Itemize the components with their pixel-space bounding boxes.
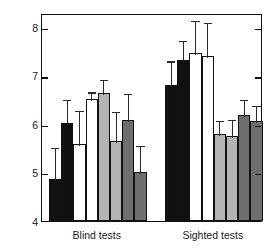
error-bar-sighted-bar-3 [195, 21, 196, 55]
error-bar-cap-blind-bar-7 [124, 94, 132, 95]
error-bar-blind-bar-4 [91, 92, 92, 101]
bar-sighted-bar-5 [214, 134, 226, 221]
error-bar-cap-sighted-bar-7 [240, 100, 248, 101]
error-bar-blind-bar-2 [67, 100, 68, 125]
y-axis-tick-labels: 45678 [18, 0, 38, 251]
x-axis-label-sighted-tests: Sighted tests [153, 229, 273, 241]
error-bar-blind-bar-8 [140, 146, 141, 175]
error-bar-cap-sighted-bar-3 [191, 21, 199, 22]
x-axis-label-blind-tests: Blind tests [37, 229, 157, 241]
y-tick-label-4: 4 [24, 217, 38, 228]
y-tick-mark-left-6 [42, 126, 48, 127]
bar-sighted-bar-4 [202, 56, 214, 221]
bar-group-container [42, 15, 261, 221]
error-bar-cap-sighted-bar-4 [204, 23, 212, 24]
y-tick-label-6: 6 [24, 120, 38, 131]
y-tick-mark-right-6 [255, 126, 261, 127]
bar-blind-bar-7 [122, 120, 134, 221]
error-bar-cap-sighted-bar-8 [252, 106, 260, 107]
y-tick-mark-right-5 [255, 174, 261, 175]
error-bar-sighted-bar-1 [171, 61, 172, 86]
bar-blind-bar-3 [73, 144, 85, 221]
error-bar-cap-sighted-bar-5 [216, 121, 224, 122]
error-bar-cap-sighted-bar-6 [228, 120, 236, 121]
y-tick-label-8: 8 [24, 23, 38, 34]
error-bar-sighted-bar-4 [207, 23, 208, 57]
y-tick-mark-right-7 [255, 77, 261, 78]
y-tick-mark-left-5 [42, 174, 48, 175]
error-bar-cap-blind-bar-3 [75, 111, 83, 112]
error-bar-cap-blind-bar-5 [100, 80, 108, 81]
y-tick-mark-left-8 [42, 29, 48, 30]
error-bar-blind-bar-5 [103, 80, 104, 95]
bar-blind-bar-5 [98, 93, 110, 221]
bar-blind-bar-8 [134, 172, 146, 221]
error-bar-blind-bar-6 [116, 112, 117, 143]
error-bar-sighted-bar-6 [232, 120, 233, 138]
plot-area [41, 14, 262, 222]
bar-blind-bar-4 [86, 99, 98, 221]
bar-blind-bar-2 [61, 123, 73, 221]
error-bar-cap-blind-bar-2 [63, 100, 71, 101]
error-bar-cap-sighted-bar-1 [167, 61, 175, 62]
error-bar-blind-bar-3 [79, 111, 80, 146]
error-bar-sighted-bar-2 [183, 41, 184, 62]
bar-sighted-bar-7 [238, 115, 250, 221]
error-bar-cap-sighted-bar-2 [179, 41, 187, 42]
error-bar-cap-blind-bar-8 [136, 146, 144, 147]
error-bar-cap-blind-bar-1 [51, 148, 59, 149]
bar-sighted-bar-3 [189, 53, 201, 221]
bar-blind-bar-6 [110, 141, 122, 221]
error-bar-sighted-bar-8 [256, 106, 257, 123]
bar-sighted-bar-2 [177, 60, 189, 221]
error-bar-cap-blind-bar-6 [112, 112, 120, 113]
error-bar-sighted-bar-7 [244, 100, 245, 117]
y-tick-mark-right-8 [255, 29, 261, 30]
bar-sighted-bar-6 [226, 136, 238, 221]
y-tick-mark-left-7 [42, 77, 48, 78]
error-bar-sighted-bar-5 [219, 121, 220, 136]
error-bar-cap-blind-bar-4 [88, 92, 96, 93]
error-bar-blind-bar-1 [55, 148, 56, 181]
error-bar-blind-bar-7 [128, 94, 129, 122]
bar-blind-bar-1 [49, 179, 61, 221]
y-tick-label-7: 7 [24, 71, 38, 82]
bar-sighted-bar-1 [165, 85, 177, 221]
bar-sighted-bar-8 [250, 121, 262, 221]
y-tick-label-5: 5 [24, 168, 38, 179]
chart-figure: Means of preference ratings 45678 Blind … [0, 0, 273, 251]
